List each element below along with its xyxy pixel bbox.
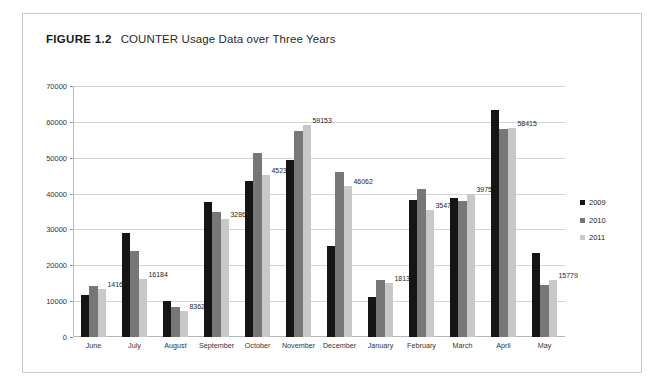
chart-legend: 200920102011	[580, 199, 606, 242]
legend-label: 2009	[589, 199, 606, 207]
y-axis-tick-label: 50000	[46, 153, 67, 162]
bar-2010-july	[130, 251, 139, 337]
bar-2010-april	[499, 129, 508, 337]
figure-title: COUNTER Usage Data over Three Years	[121, 33, 336, 45]
y-axis-tick-label: 60000	[46, 117, 67, 126]
x-axis-tick-label: March	[442, 341, 483, 350]
bar-group: 16184	[114, 86, 155, 337]
bar-2011-september: 32869	[221, 219, 230, 337]
legend-item-2011[interactable]: 2011	[580, 234, 606, 242]
x-axis-labels: JuneJulyAugustSeptemberOctoberNovemberDe…	[73, 341, 565, 350]
bar-group: 8362	[155, 86, 196, 337]
bar-2009-february	[409, 200, 418, 337]
y-axis-tick-label: 30000	[46, 225, 67, 234]
chart-plot-area: 010000200003000040000500006000070000 141…	[73, 86, 565, 337]
x-axis-tick-label: September	[196, 341, 237, 350]
x-axis-tick-label: December	[319, 341, 360, 350]
bar-2011-february: 35471	[426, 210, 435, 337]
bar-2011-october: 45237	[262, 175, 271, 337]
bar-2010-june	[89, 286, 98, 337]
bar-2010-november	[294, 131, 303, 337]
bar-2009-july	[122, 233, 131, 337]
legend-label: 2010	[589, 217, 606, 225]
y-axis-tick-mark	[70, 337, 73, 338]
bar-2011-december: 46062	[344, 186, 353, 337]
legend-swatch-icon	[580, 200, 585, 205]
x-axis-tick-label: October	[237, 341, 278, 350]
y-axis-tick-label: 40000	[46, 189, 67, 198]
y-axis-tick-label: 0	[63, 333, 67, 342]
bar-2009-june	[81, 295, 90, 337]
bar-group: 45237	[237, 86, 278, 337]
bar-2010-february	[417, 189, 426, 337]
bar-2011-april: 58415	[508, 128, 517, 337]
x-axis-tick-label: November	[278, 341, 319, 350]
figure-caption: FIGURE 1.2COUNTER Usage Data over Three …	[46, 33, 336, 45]
bar-2010-september	[212, 212, 221, 338]
legend-item-2009[interactable]: 2009	[580, 199, 606, 207]
bar-2009-january	[368, 297, 377, 337]
y-axis-tick-label: 10000	[46, 297, 67, 306]
bar-2009-september	[204, 202, 213, 337]
bar-2011-may: 15779	[549, 280, 558, 337]
x-axis-tick-label: April	[483, 341, 524, 350]
x-axis-tick-label: February	[401, 341, 442, 350]
bar-series-layer: 1416116184836232869452375915346062181393…	[73, 86, 565, 337]
y-axis-tick-label: 70000	[46, 82, 67, 91]
bar-2009-april	[491, 110, 500, 337]
bar-group: 59153	[278, 86, 319, 337]
bar-2009-may	[532, 253, 541, 337]
bar-2009-december	[327, 246, 336, 337]
bar-2009-october	[245, 181, 254, 337]
bar-group: 39750	[442, 86, 483, 337]
bar-group: 14161	[73, 86, 114, 337]
bar-2010-august	[171, 307, 180, 337]
bar-2010-december	[335, 172, 344, 337]
x-axis-tick-label: July	[114, 341, 155, 350]
bar-group: 15779	[524, 86, 565, 337]
bar-group: 18139	[360, 86, 401, 337]
bar-2010-may	[540, 285, 549, 337]
bar-group: 35471	[401, 86, 442, 337]
bar-2009-november	[286, 160, 295, 337]
legend-swatch-icon	[580, 218, 585, 223]
legend-label: 2011	[589, 234, 605, 242]
bar-value-label: 15779	[558, 272, 577, 279]
y-axis-tick-label: 20000	[46, 261, 67, 270]
bar-2010-march	[458, 201, 467, 337]
bar-2011-july: 16184	[139, 279, 148, 337]
legend-item-2010[interactable]: 2010	[580, 217, 606, 225]
bar-group: 58415	[483, 86, 524, 337]
x-axis-tick-label: August	[155, 341, 196, 350]
figure-number: FIGURE 1.2	[46, 33, 112, 45]
bar-2010-october	[253, 153, 262, 337]
x-axis-tick-label: January	[360, 341, 401, 350]
bar-2011-august: 8362	[180, 311, 189, 337]
bar-group: 32869	[196, 86, 237, 337]
bar-group: 46062	[319, 86, 360, 337]
bar-2009-march	[450, 198, 459, 337]
bar-2010-january	[376, 280, 385, 337]
x-axis-tick-label: May	[524, 341, 565, 350]
bar-2011-march: 39750	[467, 194, 476, 337]
x-axis-tick-label: June	[73, 341, 114, 350]
bar-2011-june: 14161	[98, 289, 107, 337]
bar-2009-august	[163, 301, 172, 337]
bar-2011-january: 18139	[385, 283, 394, 337]
legend-swatch-icon	[580, 235, 585, 240]
bar-2011-november: 59153	[303, 125, 312, 337]
